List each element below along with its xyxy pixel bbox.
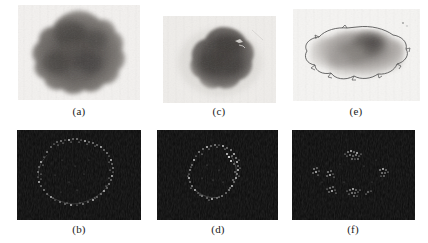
panel-label-c: (c) bbox=[178, 105, 260, 117]
panel-image-b bbox=[17, 130, 141, 220]
panel-label-e: (e) bbox=[315, 105, 397, 117]
panel-image-e bbox=[293, 9, 420, 101]
panel-label-f: (f) bbox=[312, 223, 394, 235]
edge-map-b bbox=[17, 130, 141, 220]
panel-label-b: (b) bbox=[38, 223, 120, 235]
edge-map-f bbox=[292, 130, 415, 220]
lesion-image-a bbox=[18, 5, 140, 100]
lesion-image-c bbox=[163, 16, 276, 103]
panel-label-a: (a) bbox=[38, 105, 120, 117]
panel-image-a bbox=[18, 5, 140, 100]
figure-container: (a) bbox=[0, 0, 428, 243]
panel-image-c bbox=[163, 16, 276, 103]
lesion-image-e bbox=[293, 9, 420, 101]
panel-label-d: (d) bbox=[177, 223, 259, 235]
panel-image-d bbox=[157, 130, 278, 220]
panel-image-f bbox=[292, 130, 415, 220]
edge-map-d bbox=[157, 130, 278, 220]
